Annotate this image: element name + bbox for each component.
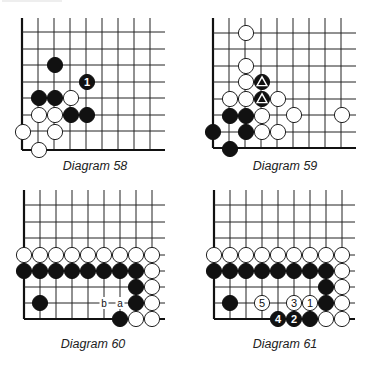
black-stone-icon bbox=[96, 263, 111, 278]
black-stone bbox=[302, 311, 317, 326]
black-stone-icon bbox=[302, 263, 317, 278]
black-stone bbox=[128, 263, 143, 278]
white-stone-icon bbox=[238, 58, 253, 73]
white-stone-icon bbox=[144, 279, 159, 294]
white-stone bbox=[144, 279, 159, 294]
white-stone: 1 bbox=[302, 295, 317, 310]
white-stone bbox=[238, 91, 253, 106]
diagram-61: 53142 Diagram 61 bbox=[206, 190, 355, 351]
diagram-caption: Diagram 59 bbox=[253, 159, 318, 173]
white-stone bbox=[144, 295, 159, 310]
black-stone-icon bbox=[128, 279, 143, 294]
white-stone bbox=[254, 247, 269, 262]
white-stone bbox=[334, 279, 349, 294]
white-stone bbox=[238, 58, 253, 73]
diagram-58: 1 Diagram 58 bbox=[15, 18, 165, 173]
white-stone-icon bbox=[222, 247, 237, 262]
point-label-b: b bbox=[101, 298, 107, 309]
white-stone-icon bbox=[270, 124, 285, 139]
white-stone-icon bbox=[270, 91, 285, 106]
white-stone bbox=[128, 247, 143, 262]
black-stone-icon bbox=[112, 311, 127, 326]
white-stone bbox=[302, 247, 317, 262]
diagram-59: Diagram 59 bbox=[205, 18, 356, 173]
white-stone bbox=[270, 247, 285, 262]
diagram-60: ba Diagram 60 bbox=[16, 190, 165, 351]
black-stone-icon bbox=[32, 263, 47, 278]
white-stone bbox=[47, 124, 62, 139]
black-stone bbox=[302, 263, 317, 278]
white-stone-icon bbox=[144, 311, 159, 326]
move-number: 2 bbox=[291, 313, 297, 325]
black-stone-icon bbox=[238, 108, 253, 123]
white-stone-icon bbox=[64, 247, 79, 262]
black-stone bbox=[16, 263, 31, 278]
move-number: 4 bbox=[275, 313, 282, 325]
white-stone bbox=[128, 311, 143, 326]
black-stone-icon bbox=[318, 279, 333, 294]
black-stone-icon bbox=[47, 57, 62, 72]
black-stone-icon bbox=[318, 295, 333, 310]
white-stone bbox=[63, 90, 78, 105]
black-stone bbox=[238, 108, 253, 123]
black-stone bbox=[254, 263, 269, 278]
white-stone bbox=[238, 247, 253, 262]
white-stone bbox=[318, 247, 333, 262]
black-stone bbox=[79, 107, 94, 122]
black-stone-icon bbox=[238, 263, 253, 278]
white-stone-icon bbox=[334, 263, 349, 278]
white-stone bbox=[270, 91, 285, 106]
black-stone-icon bbox=[16, 263, 31, 278]
black-stone bbox=[32, 263, 47, 278]
white-stone-icon bbox=[254, 108, 269, 123]
white-stone-icon bbox=[206, 247, 221, 262]
black-stone-icon bbox=[270, 263, 285, 278]
white-stone-icon bbox=[270, 247, 285, 262]
diagram-caption: Diagram 61 bbox=[253, 337, 318, 351]
white-stone-icon bbox=[15, 124, 30, 139]
black-stone bbox=[318, 295, 333, 310]
white-stone-icon bbox=[144, 247, 159, 262]
black-stone-icon bbox=[79, 107, 94, 122]
diagram-caption: Diagram 58 bbox=[63, 159, 128, 173]
white-stone bbox=[286, 107, 301, 122]
white-stone bbox=[64, 247, 79, 262]
black-stone-icon bbox=[206, 263, 221, 278]
black-stone-icon bbox=[64, 263, 79, 278]
black-stone bbox=[206, 263, 221, 278]
black-stone bbox=[222, 108, 237, 123]
white-stone-icon bbox=[47, 124, 62, 139]
white-stone-icon bbox=[96, 247, 111, 262]
white-stone-icon bbox=[318, 247, 333, 262]
white-stone bbox=[32, 247, 47, 262]
white-stone bbox=[48, 247, 63, 262]
white-stone-icon bbox=[286, 247, 301, 262]
white-stone bbox=[144, 263, 159, 278]
black-stone-icon bbox=[318, 263, 333, 278]
move-number: 1 bbox=[84, 76, 90, 88]
white-stone bbox=[16, 247, 31, 262]
black-stone-icon bbox=[48, 263, 63, 278]
black-stone-icon bbox=[222, 141, 237, 156]
black-stone bbox=[222, 141, 237, 156]
white-stone bbox=[222, 91, 237, 106]
black-stone-icon bbox=[32, 295, 47, 310]
white-stone-icon bbox=[31, 142, 46, 157]
white-stone-icon bbox=[334, 247, 349, 262]
white-stone-icon bbox=[334, 311, 349, 326]
white-stone bbox=[334, 247, 349, 262]
white-stone-icon bbox=[222, 91, 237, 106]
black-stone-icon bbox=[47, 90, 62, 105]
white-stone-icon bbox=[254, 247, 269, 262]
black-stone bbox=[48, 263, 63, 278]
point-label-a: a bbox=[117, 298, 123, 309]
black-stone bbox=[238, 263, 253, 278]
black-stone-icon bbox=[238, 124, 253, 139]
black-stone bbox=[112, 311, 127, 326]
black-stone bbox=[286, 263, 301, 278]
black-stone bbox=[112, 263, 127, 278]
white-stone-icon bbox=[32, 247, 47, 262]
white-stone bbox=[47, 107, 62, 122]
black-stone-icon bbox=[128, 295, 143, 310]
white-stone bbox=[112, 247, 127, 262]
